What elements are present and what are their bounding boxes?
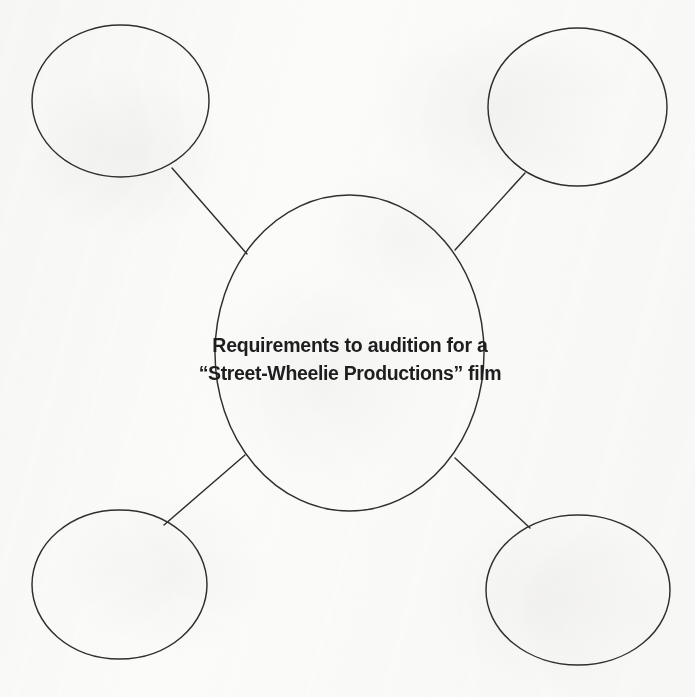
center-bubble-label-line-2: “Street-Wheelie Productions” film <box>165 359 535 387</box>
connector-bottom-right <box>455 458 530 528</box>
worksheet-page: Requirements to audition for a “Street-W… <box>0 0 695 697</box>
connector-bottom-left <box>164 455 245 525</box>
bubble-bottom-left[interactable] <box>32 510 207 659</box>
connector-top-right <box>455 173 525 250</box>
bubble-top-right[interactable] <box>488 28 667 186</box>
connector-top-left <box>172 168 247 254</box>
bubble-top-left[interactable] <box>32 25 209 177</box>
bubble-bottom-right[interactable] <box>486 515 670 665</box>
center-bubble-label-line-1: Requirements to audition for a <box>165 331 535 359</box>
center-bubble-label: Requirements to audition for a “Street-W… <box>165 331 535 387</box>
